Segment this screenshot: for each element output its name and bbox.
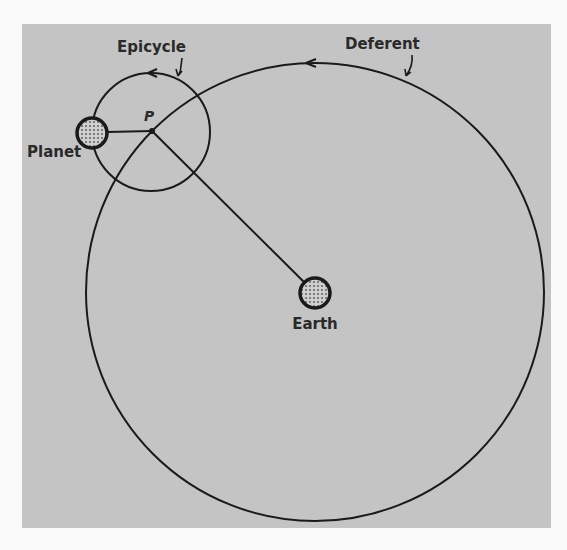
- epicycle-diagram: Epicycle Deferent Planet P Earth: [0, 0, 567, 550]
- point-p-marker: [149, 128, 155, 134]
- planet-p-line: [107, 131, 152, 132]
- earth-label: Earth: [292, 315, 338, 333]
- planet-label: Planet: [27, 143, 81, 161]
- point-p-label: P: [144, 108, 155, 124]
- epicycle-label: Epicycle: [117, 38, 186, 56]
- earth-body-icon: [300, 278, 330, 308]
- planet-body-icon: [77, 118, 107, 148]
- deferent-label: Deferent: [345, 35, 420, 53]
